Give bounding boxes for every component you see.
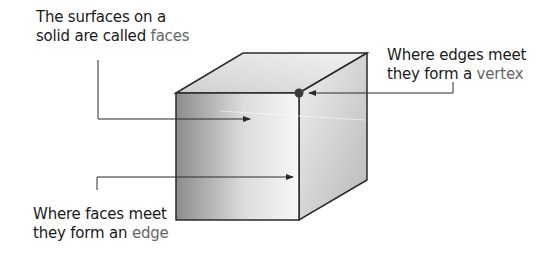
edge-label: Where faces meet they form an edge — [33, 205, 169, 243]
edge-term: edge — [132, 224, 169, 242]
faces-label-line1: The surfaces on a — [36, 8, 189, 27]
faces-term: faces — [151, 27, 190, 45]
vertex-label-line2: they form a vertex — [387, 65, 526, 84]
vertex-label: Where edges meet they form a vertex — [387, 46, 526, 84]
vertex-label-line1: Where edges meet — [387, 46, 526, 65]
faces-label: The surfaces on a solid are called faces — [36, 8, 189, 46]
edge-label-line1: Where faces meet — [33, 205, 169, 224]
faces-label-line2: solid are called faces — [36, 27, 189, 46]
vertex-dot — [295, 89, 304, 98]
vertex-term: vertex — [477, 65, 524, 83]
edge-label-line2: they form an edge — [33, 224, 169, 243]
